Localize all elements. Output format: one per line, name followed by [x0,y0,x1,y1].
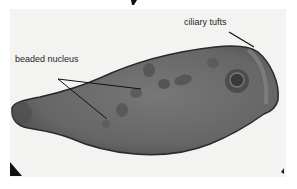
arrow-fragment-icon [131,0,137,5]
label-ciliary-tufts: ciliary tufts [184,18,227,27]
ring-structure [225,69,249,93]
micrograph-svg [0,0,297,189]
label-beaded-nucleus: beaded nucleus [15,55,79,64]
micrograph-figure: beaded nucleus ciliary tufts [0,0,297,189]
ciliary-tufts-leader [229,32,254,47]
cell-posterior-tip [12,102,32,124]
corner-shadow [10,162,22,176]
corner-mark [281,168,284,174]
